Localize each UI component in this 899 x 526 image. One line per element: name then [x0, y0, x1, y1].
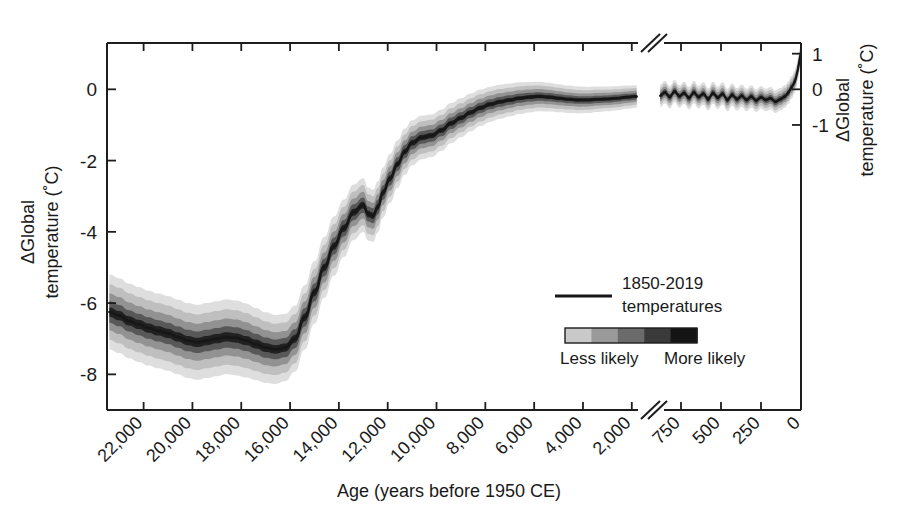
y-axis-left-title-line2: temperature (˚C) [42, 165, 62, 298]
legend-more-likely-label: More likely [664, 349, 746, 368]
legend-colorbar-step [591, 328, 618, 343]
y-tick-label-right: -1 [812, 115, 829, 136]
legend-colorbar-step [644, 328, 671, 343]
legend-line-label-2: temperatures [622, 297, 722, 316]
y-tick-label-left: -4 [80, 222, 97, 243]
y-tick-label-left: -2 [80, 151, 97, 172]
y-tick-label-right: 1 [812, 44, 823, 65]
legend-colorbar-step [671, 328, 698, 343]
legend-less-likely-label: Less likely [560, 349, 639, 368]
axis-break-bottom [638, 400, 667, 420]
y-axis-right-title-line2: temperature (˚C) [857, 43, 877, 176]
axis-break-top [638, 33, 667, 53]
legend-colorbar [565, 328, 698, 343]
y-tick-label-right: 0 [812, 79, 823, 100]
legend-line-label-1: 1850-2019 [622, 274, 703, 293]
y-axis-right-title-line1: ΔGlobal [833, 78, 853, 142]
y-tick-label-left: -6 [80, 293, 97, 314]
y-tick-label-left: 0 [86, 79, 97, 100]
legend-colorbar-step [618, 328, 645, 343]
x-axis-title: Age (years before 1950 CE) [337, 481, 561, 501]
figure-container: 22,00020,00018,00016,00014,00012,00010,0… [0, 0, 899, 526]
y-tick-label-left: -8 [80, 364, 97, 385]
legend-colorbar-step [565, 328, 592, 343]
y-axis-left-title-line1: ΔGlobal [18, 200, 38, 264]
temperature-reconstruction-chart: 22,00020,00018,00016,00014,00012,00010,0… [0, 0, 899, 526]
